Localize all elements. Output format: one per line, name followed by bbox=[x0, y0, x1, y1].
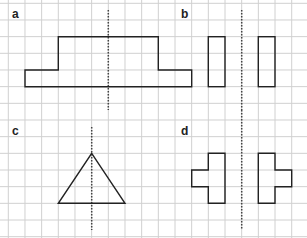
panel-label-b: b bbox=[181, 8, 188, 20]
symmetry-grid-diagram bbox=[0, 0, 307, 238]
grid-lines bbox=[0, 0, 307, 238]
shape-panel-b-1 bbox=[258, 37, 275, 87]
panel-label-d: d bbox=[181, 125, 188, 137]
panel-label-a: a bbox=[12, 8, 19, 20]
panel-label-c: c bbox=[12, 125, 19, 137]
shape-panel-b-0 bbox=[208, 37, 225, 87]
